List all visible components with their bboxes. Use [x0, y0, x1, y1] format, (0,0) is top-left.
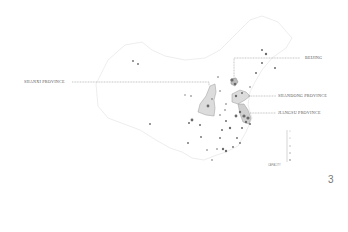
china-map: BEIJING SHANXI PROVINCE SHANDONG PROVINC…: [0, 0, 348, 232]
jiangsu-province-shape: [238, 104, 251, 124]
shanxi-leader-line: [72, 82, 209, 86]
map-canvas: [0, 0, 348, 232]
country-outline: [96, 16, 292, 160]
shanxi-province-shape: [198, 84, 216, 116]
legend-caption: CAPACITY: [268, 164, 281, 167]
page-number: 3: [328, 174, 334, 185]
label-jiangsu-province: JIANGSU PROVINCE: [278, 110, 321, 115]
shandong-province-shape: [232, 90, 250, 104]
label-shanxi-province: SHANXI PROVINCE: [24, 79, 65, 84]
beijing-leader-line: [234, 58, 300, 79]
capacity-legend: [287, 130, 291, 162]
label-shandong-province: SHANDONG PROVINCE: [278, 93, 327, 98]
label-beijing: BEIJING: [305, 55, 322, 60]
